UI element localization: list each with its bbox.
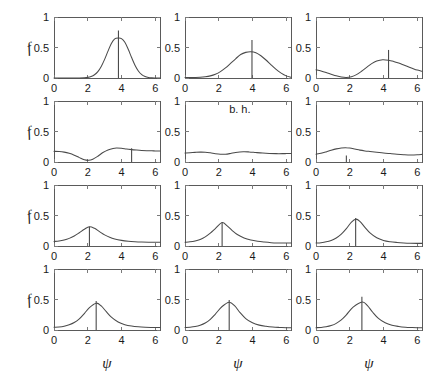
y-tick-label: 1	[174, 179, 180, 191]
x-tick-label: 2	[216, 334, 222, 346]
x-tick-label: 2	[85, 166, 91, 178]
y-tick-label: 0.5	[296, 294, 311, 306]
subplot-r4-c2: 024600.51ψ	[151, 263, 301, 375]
x-tick-label: 0	[51, 82, 57, 94]
y-tick-label: 0	[305, 72, 311, 84]
x-tick-label: 0	[313, 82, 319, 94]
y-tick-label: 1	[43, 11, 49, 23]
x-tick-label: 4	[118, 250, 124, 262]
x-tick-label: 0	[313, 334, 319, 346]
x-tick-label: 6	[414, 166, 420, 178]
y-tick-label: 0.5	[165, 42, 180, 54]
subplot-r4-c1: 024600.51fψ	[20, 263, 170, 375]
y-tick-label: 1	[305, 179, 311, 191]
x-tick-label: 4	[249, 166, 255, 178]
data-curve	[54, 303, 160, 327]
y-tick-label: 0	[174, 324, 180, 336]
y-tick-label: 0	[174, 156, 180, 168]
y-tick-label: 0	[43, 72, 49, 84]
x-tick-label: 2	[347, 250, 353, 262]
x-axis-label: ψ	[233, 355, 243, 371]
subplot-r1-c1: 024600.51f	[20, 11, 170, 98]
plot-frame	[186, 270, 292, 331]
x-tick-label: 2	[347, 166, 353, 178]
y-tick-label: 0	[174, 72, 180, 84]
plot-frame	[317, 18, 423, 79]
y-tick-label: 0	[43, 240, 49, 252]
y-tick-label: 1	[305, 263, 311, 275]
data-curve	[316, 219, 422, 243]
x-tick-label: 4	[118, 82, 124, 94]
y-tick-label: 0.5	[34, 126, 49, 138]
y-tick-label: 0.5	[296, 126, 311, 138]
x-tick-label: 2	[216, 166, 222, 178]
subplot-r3-c3: 024600.51	[282, 179, 432, 266]
y-tick-label: 1	[43, 263, 49, 275]
x-tick-label: 2	[347, 82, 353, 94]
y-tick-label: 0.5	[165, 210, 180, 222]
x-axis-label: ψ	[364, 355, 374, 371]
x-tick-label: 4	[380, 166, 386, 178]
y-tick-label: 0.5	[296, 42, 311, 54]
x-tick-label: 0	[182, 166, 188, 178]
x-tick-label: 0	[182, 250, 188, 262]
x-tick-label: 4	[380, 250, 386, 262]
plot-frame	[55, 18, 161, 79]
y-tick-label: 1	[174, 11, 180, 23]
x-tick-label: 2	[85, 334, 91, 346]
subplot-r3-c1: 024600.51f	[20, 179, 170, 266]
y-tick-label: 0	[305, 240, 311, 252]
x-tick-label: 4	[118, 166, 124, 178]
y-tick-label: 1	[174, 95, 180, 107]
y-tick-label: 0	[305, 324, 311, 336]
subplot-r3-c2: 024600.51	[151, 179, 301, 266]
subplot-r2-c3: 024600.51	[282, 95, 432, 182]
x-tick-label: 6	[414, 334, 420, 346]
x-tick-label: 0	[313, 250, 319, 262]
subplot-r1-c2: 024600.51	[151, 11, 301, 98]
y-tick-label: 0.5	[34, 294, 49, 306]
y-tick-label: 0.5	[296, 210, 311, 222]
data-curve	[185, 302, 291, 328]
y-tick-label: 0.5	[34, 42, 49, 54]
plot-frame	[317, 270, 423, 331]
x-tick-label: 0	[182, 334, 188, 346]
data-curve	[316, 302, 422, 328]
subplot-r4-c3: 024600.51ψ	[282, 263, 432, 375]
x-tick-label: 4	[249, 250, 255, 262]
y-tick-label: 1	[305, 11, 311, 23]
plot-frame	[186, 186, 292, 247]
x-axis-label: ψ	[102, 355, 112, 371]
x-tick-label: 0	[51, 250, 57, 262]
plot-frame	[55, 270, 161, 331]
x-tick-label: 4	[249, 334, 255, 346]
y-tick-label: 0.5	[165, 126, 180, 138]
x-tick-label: 6	[414, 82, 420, 94]
x-tick-label: 0	[51, 334, 57, 346]
y-tick-label: 0	[43, 156, 49, 168]
x-tick-label: 0	[313, 166, 319, 178]
x-tick-label: 2	[85, 82, 91, 94]
y-tick-label: 0	[43, 324, 49, 336]
subplot-r2-c1: 024600.51f	[20, 95, 170, 182]
data-curve	[316, 60, 422, 78]
plot-frame	[317, 102, 423, 163]
data-curve	[316, 148, 422, 155]
y-tick-label: 1	[174, 263, 180, 275]
subplot-r1-c3: 024600.51	[282, 11, 432, 98]
x-tick-label: 0	[51, 166, 57, 178]
y-tick-label: 0.5	[165, 294, 180, 306]
panel-annotation: b. h.	[229, 103, 250, 115]
x-tick-label: 4	[380, 82, 386, 94]
data-curve	[54, 38, 160, 78]
data-curve	[54, 227, 160, 242]
data-curve	[185, 222, 291, 243]
y-tick-label: 0	[174, 240, 180, 252]
y-tick-label: 1	[43, 95, 49, 107]
x-tick-label: 6	[414, 250, 420, 262]
plot-frame	[317, 186, 423, 247]
data-curve	[185, 52, 291, 78]
y-tick-label: 1	[43, 179, 49, 191]
data-curve	[185, 152, 291, 155]
